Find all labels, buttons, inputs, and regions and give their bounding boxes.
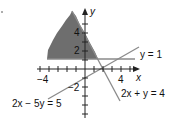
y-axis [82, 13, 88, 118]
shaded-region [47, 11, 98, 59]
y-axis-arrow-icon [82, 8, 88, 15]
x-axis [37, 66, 136, 72]
label-y-equals-1: y = 1 [140, 49, 162, 60]
y-axis-label: y [89, 6, 96, 17]
y-tick-2: 2 [74, 45, 80, 56]
x-tick-4: 4 [118, 74, 124, 85]
label-2x-minus-5y-equals-5: 2x − 5y = 5 [12, 98, 62, 109]
x-tick-neg-4: −4 [37, 74, 49, 85]
label-2x-plus-y-equals-4: 2x + y = 4 [121, 88, 165, 99]
x-axis-label: x [135, 72, 142, 83]
graph-canvas: y x 4 2 −2 4 −4 y = 1 2x + y = 4 2x − 5y… [0, 0, 172, 130]
y-tick-4: 4 [74, 27, 80, 38]
stray-dot [1, 11, 3, 13]
y-tick-neg-2: −2 [68, 82, 80, 93]
